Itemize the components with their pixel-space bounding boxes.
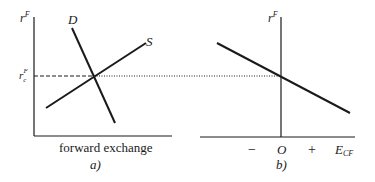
equilibrium-rate-label: rcF xyxy=(19,67,28,84)
panel-b-caption: b) xyxy=(276,157,287,172)
panel-b: rF − O + ECF b) xyxy=(200,10,355,172)
tick-plus: + xyxy=(308,142,316,157)
panel-a: rF rcF D S forward exchange a) xyxy=(19,10,172,172)
panel-a-y-axis-label: rF xyxy=(20,10,30,25)
tick-origin: O xyxy=(277,142,287,157)
diagram-canvas: rF rcF D S forward exchange a) rF − O + … xyxy=(0,0,375,182)
panel-b-y-axis-label: rF xyxy=(268,10,278,25)
panel-a-x-axis-label: forward exchange xyxy=(59,140,153,155)
panel-b-x-axis-label: ECF xyxy=(334,142,353,158)
demand-label: D xyxy=(67,12,78,27)
tick-minus: − xyxy=(248,142,256,157)
panel-a-caption: a) xyxy=(90,157,101,172)
supply-label: S xyxy=(146,34,153,49)
excess-forward-curve xyxy=(217,43,350,113)
